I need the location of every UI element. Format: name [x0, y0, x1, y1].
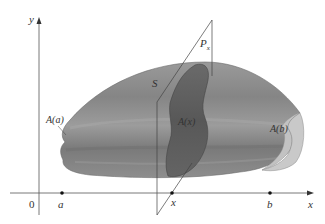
cross-section-label-A-a: A(a) [45, 114, 64, 126]
solid-label-S: S [152, 77, 158, 89]
point-x: x [170, 191, 176, 208]
svg-text:x: x [170, 196, 176, 208]
plane-label: Px [199, 37, 211, 52]
svg-text:b: b [267, 198, 273, 210]
origin-label: 0 [29, 198, 35, 210]
y-axis: y [28, 13, 42, 215]
y-axis-label: y [28, 13, 34, 25]
point-a: a [58, 191, 64, 210]
x-axis-label: x [307, 198, 313, 210]
solid-volume-diagram: y x 0 a x b S Px A(x) A(a) [0, 0, 325, 224]
svg-text:a: a [58, 198, 64, 210]
cross-section-label-A-b: A(b) [269, 123, 288, 135]
point-b: b [267, 191, 273, 210]
cross-section-label-A-x: A(x) [177, 116, 196, 128]
